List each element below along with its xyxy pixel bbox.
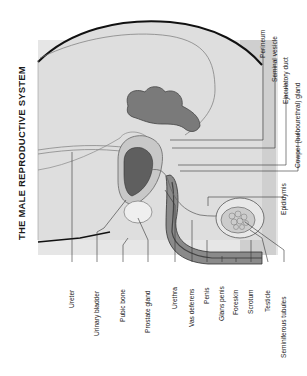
label-cowper-gland: Cowper (bulbourethral) gland [294,83,301,168]
label-testicle: Testicle [264,290,271,312]
label-ejaculatory-duct: Ejaculatory duct [282,57,289,104]
label-seminiferous-tubules: Seminiferous tubules [280,296,287,358]
label-epididymis: Epididymis [280,183,287,215]
diagram-title: THE MALE REPRODUCTIVE SYSTEM [16,66,27,240]
label-penis: Penis [203,288,210,305]
label-urethra: Urethra [171,287,178,309]
prostate-gland [124,201,152,223]
label-foreskin: Foreskin [232,290,239,315]
label-seminal-vesicle: Seminal vesicle [271,36,278,82]
label-ureter: Ureter [68,290,75,308]
label-pubic-bone: Pubic bone [119,289,126,322]
label-vas-deferens: Vas deferens [188,289,195,327]
diagram-stage: THE MALE REPRODUCTIVE SYSTEM Ureter Urin… [0,0,307,376]
label-prostate-gland: Prostate gland [144,290,151,333]
label-scrotum: Scrotum [247,289,254,314]
label-perineum: Perineum [259,30,266,58]
label-urinary-bladder: Urinary bladder [93,291,100,336]
label-glans-penis: Glans penis [218,286,225,321]
